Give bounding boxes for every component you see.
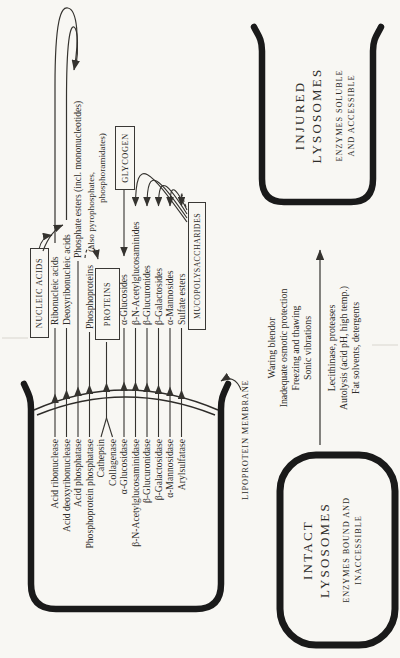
- lipoprotein-membrane-arcs: [34, 390, 218, 415]
- enzyme-alpha-glucosidase: α-Glucosidase: [118, 439, 129, 494]
- enzyme-beta-galactosidase: β-Galactosidase: [153, 439, 164, 500]
- substrate-ribonucleic-acids: Ribonucleic acids: [49, 257, 60, 325]
- enzyme-beta-n-acetylglucosaminidase: β-N-Acetylglucosaminidase: [130, 439, 141, 547]
- treatment-lecithinase: Lecithinase, proteases: [326, 253, 337, 443]
- enzyme-acid-ribonuclease: Acid ribonuclease: [49, 439, 60, 509]
- injured-lysosomes-title-line2: LYSOSOMES: [309, 33, 325, 198]
- intact-lysosomes-title-line2: LYSOSOMES: [317, 455, 333, 645]
- substrate-beta-glucuronides: β-Glucuronides: [141, 265, 152, 325]
- substrate-sulfate-esters: Sulfate esters: [176, 274, 187, 325]
- treatment-osmotic: Inadequate osmotic protection: [278, 253, 289, 443]
- enzyme-beta-glucuronidase: β-Glucuronidase: [141, 439, 152, 503]
- substrate-phosphoproteins: Phosphoproteins: [84, 265, 95, 329]
- enzyme-arylsulfatase: Arylsulfatase: [176, 439, 187, 490]
- injured-lysosomes-subtitle-line2: AND ACCESSIBLE: [346, 33, 358, 198]
- intact-lysosomes-subtitle-line1: ENZYMES BOUND AND: [341, 455, 353, 645]
- substrate-beta-n-acetylglucosaminides: β-N-Acetylglucosaminides: [130, 222, 141, 325]
- scanned-diagram-page: Acid ribonuclease Acid deoxyribonuclease…: [0, 0, 400, 658]
- treatment-sonic-vibrations: Sonic vibrations: [302, 253, 313, 443]
- substrate-deoxyribonucleic-acids: Deoxyribonucleic acids: [61, 234, 72, 325]
- enzyme-phosphoprotein-phosphatase: Phosphoprotein phosphatase: [84, 439, 95, 549]
- mucopolysaccharide-fan-arrows: [136, 174, 188, 222]
- intact-lysosome-outline: [280, 455, 395, 645]
- nucleic-acids-box: NUCLEIC ACIDS: [30, 248, 49, 338]
- phosphate-note-line1: (also pyrophosphates,: [86, 172, 97, 252]
- intact-lysosomes-subtitle-line2: INACCESSIBLE: [353, 455, 365, 645]
- treatment-freezing-thawing: Freezing and thawing: [290, 253, 301, 443]
- lipoprotein-membrane-label: LIPOPROTEIN MEMBRANE: [241, 380, 250, 500]
- substrate-alpha-mannosides: α-Mannosides: [164, 270, 175, 325]
- intact-lysosomes-title-line1: INTACT: [300, 455, 316, 645]
- injured-lysosomes-title-line1: INJURED: [292, 33, 308, 198]
- glycogen-box: GLYCOGEN: [115, 126, 135, 190]
- treatment-autolysis: Autolysis (acid pH, high temp.): [338, 253, 349, 443]
- treatment-waring-blendor: Waring blendor: [266, 253, 277, 443]
- injured-lysosomes-subtitle-line1: ENZYMES SOLUBLE: [334, 33, 346, 198]
- enzyme-alpha-mannosidase: α-Mannosidase: [164, 439, 175, 498]
- enzyme-collagenase: Collagenase: [107, 439, 118, 486]
- rotated-diagram-stage: Acid ribonuclease Acid deoxyribonuclease…: [0, 0, 400, 658]
- enzyme-acid-phosphatase: Acid phosphatase: [72, 439, 83, 507]
- enzyme-acid-deoxyribonuclease: Acid deoxyribonuclease: [61, 439, 72, 532]
- mucopolysaccharides-box: MUCOPOLYSACCHARIDES: [188, 202, 206, 330]
- substrate-phosphate-esters: Phosphate esters (incl. mononucleotides): [72, 101, 83, 258]
- proteins-box: PROTEINS: [95, 268, 120, 340]
- treatment-fat-solvents: Fat solvents, detergents: [350, 253, 361, 443]
- enzyme-cathepsin: Cathepsin: [95, 439, 106, 477]
- phosphate-note-line2: phosphoramidates): [97, 133, 108, 203]
- substrate-beta-galactosides: β-Galactosides: [153, 268, 164, 325]
